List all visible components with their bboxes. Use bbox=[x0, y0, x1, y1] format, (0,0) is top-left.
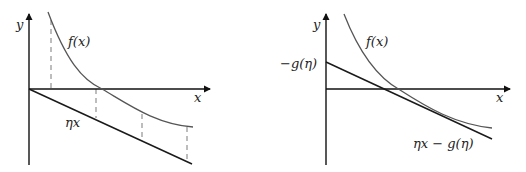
y-axis-label: y bbox=[15, 17, 24, 32]
x-axis-label: x bbox=[496, 90, 504, 105]
curve-f bbox=[344, 14, 492, 128]
intercept-label: −g(η) bbox=[280, 56, 317, 71]
left-panel: y f(x) x ηx bbox=[15, 12, 210, 165]
curve-label: f(x) bbox=[365, 34, 388, 49]
diagram-svg: y f(x) x ηx y f(x) −g(η) x ηx − g(η) bbox=[0, 0, 526, 172]
curve-f bbox=[48, 12, 193, 127]
line-label: ηx − g(η) bbox=[413, 136, 474, 151]
line-label: ηx bbox=[65, 115, 81, 130]
curve-label: f(x) bbox=[67, 34, 90, 49]
y-axis-label: y bbox=[312, 17, 321, 32]
x-axis-label: x bbox=[194, 90, 202, 105]
tangent-line bbox=[326, 62, 492, 139]
right-panel: y f(x) −g(η) x ηx − g(η) bbox=[280, 14, 510, 165]
line-eta-x bbox=[29, 89, 192, 164]
diagram-canvas: y f(x) x ηx y f(x) −g(η) x ηx − g(η) bbox=[0, 0, 526, 172]
